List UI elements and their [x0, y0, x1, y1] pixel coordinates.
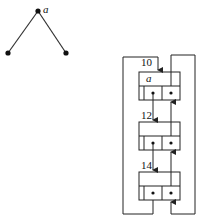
linked-structure [123, 55, 195, 214]
tree-edge-left [8, 11, 38, 53]
tree-root-label: a [43, 3, 49, 15]
node-address-label: 14 [141, 159, 153, 171]
tree-edge-right [38, 11, 66, 53]
loop-right-pointer [171, 55, 195, 214]
tree-left-node [5, 50, 10, 55]
tree-right-node [63, 50, 68, 55]
node-address-label: 12 [141, 109, 152, 121]
node-value-label: a [146, 72, 152, 84]
diagram-canvas: a 10 a 12 14 [0, 0, 206, 219]
tree-root-node [35, 8, 40, 13]
node-address-label: 10 [141, 56, 153, 68]
binary-tree: a [5, 3, 68, 56]
